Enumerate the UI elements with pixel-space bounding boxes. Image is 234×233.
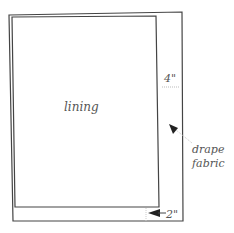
drape-arrow-icon xyxy=(169,124,178,134)
drape-arrow-leader xyxy=(176,130,192,143)
top-margin-label: 4" xyxy=(164,73,176,84)
side-margin-label: 2" xyxy=(166,209,178,220)
drape-label-line2: fabric xyxy=(192,157,225,171)
diagram-canvas xyxy=(0,0,234,233)
drape-fabric-label: drape fabric xyxy=(192,143,225,171)
lining-label: lining xyxy=(64,101,99,113)
drape-label-line1: drape xyxy=(192,143,225,157)
